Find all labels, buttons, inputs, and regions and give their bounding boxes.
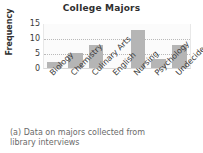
figure-caption: (a) Data on majors collected from librar…: [10, 128, 195, 148]
chart-title: College Majors: [0, 3, 203, 13]
y-axis-tick-labels: 15 10 5 0: [22, 20, 40, 72]
y-tick-label: 5: [22, 50, 40, 58]
caption-line-1: (a) Data on majors collected from: [10, 128, 195, 138]
y-tick-label: 15: [22, 20, 40, 28]
bar-chart-figure: College Majors Frequency 15 10 5 0 Biolo…: [0, 0, 203, 153]
caption-line-2: library interviews: [10, 138, 195, 148]
x-axis-category-labels: BiologyChemistryCulinary ArtsEnglishNurs…: [43, 69, 191, 121]
y-tick-label: 0: [22, 65, 40, 73]
y-axis-label: Frequency: [4, 5, 16, 59]
y-tick-label: 10: [22, 35, 40, 43]
